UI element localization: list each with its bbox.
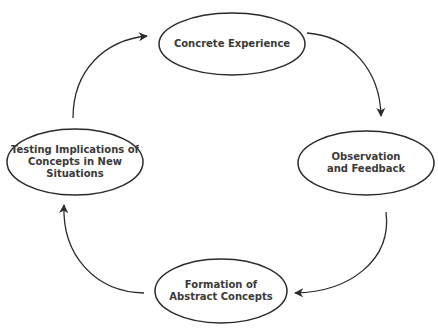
label-observation-feedback: Observation and Feedback bbox=[298, 131, 434, 195]
arrow-formation-to-testing bbox=[64, 205, 144, 293]
arrow-observation-to-formation bbox=[295, 212, 387, 293]
node-text: Concrete Experience bbox=[174, 38, 290, 50]
node-text: Observation and Feedback bbox=[327, 151, 405, 175]
node-text: Testing Implications of Concepts in New … bbox=[11, 144, 139, 180]
label-formation-abstract-concepts: Formation of Abstract Concepts bbox=[155, 259, 287, 323]
label-concrete-experience: Concrete Experience bbox=[159, 13, 305, 75]
label-testing-implications: Testing Implications of Concepts in New … bbox=[7, 129, 143, 195]
arrow-testing-to-concrete bbox=[73, 36, 147, 118]
arrow-concrete-to-observation bbox=[307, 33, 381, 116]
node-text: Formation of Abstract Concepts bbox=[169, 279, 272, 303]
